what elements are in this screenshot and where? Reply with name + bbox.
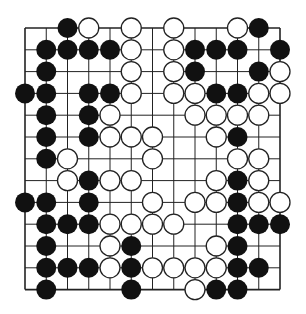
white-stone (164, 62, 184, 82)
white-stone (249, 192, 269, 212)
black-stone (249, 214, 269, 234)
white-stone (58, 149, 78, 169)
black-stone (36, 83, 56, 103)
black-stone (228, 280, 248, 300)
black-stone (100, 40, 120, 60)
white-stone (121, 83, 141, 103)
white-stone (206, 171, 226, 191)
black-stone (228, 171, 248, 191)
black-stone (79, 105, 99, 125)
black-stone (79, 83, 99, 103)
black-stone (228, 258, 248, 278)
white-stone (249, 83, 269, 103)
black-stone (79, 171, 99, 191)
white-stone (206, 236, 226, 256)
black-stone (58, 40, 78, 60)
black-stone (121, 236, 141, 256)
black-stone (36, 40, 56, 60)
white-stone (206, 258, 226, 278)
white-stone (143, 149, 163, 169)
white-stone (164, 83, 184, 103)
black-stone (36, 149, 56, 169)
black-stone (36, 236, 56, 256)
black-stone (206, 280, 226, 300)
white-stone (206, 127, 226, 147)
white-stone (143, 214, 163, 234)
black-stone (270, 40, 290, 60)
black-stone (206, 83, 226, 103)
black-stone (36, 280, 56, 300)
black-stone (228, 192, 248, 212)
black-stone (249, 62, 269, 82)
white-stone (79, 18, 99, 38)
black-stone (15, 83, 35, 103)
white-stone (58, 171, 78, 191)
black-stone (36, 192, 56, 212)
black-stone (228, 127, 248, 147)
white-stone (185, 105, 205, 125)
white-stone (185, 192, 205, 212)
white-stone (228, 105, 248, 125)
go-board (0, 0, 306, 314)
white-stone (249, 171, 269, 191)
white-stone (164, 258, 184, 278)
black-stone (36, 62, 56, 82)
white-stone (185, 83, 205, 103)
black-stone (228, 214, 248, 234)
black-stone (58, 18, 78, 38)
black-stone (58, 214, 78, 234)
black-stone (185, 62, 205, 82)
black-stone (228, 83, 248, 103)
black-stone (270, 214, 290, 234)
black-stone (249, 18, 269, 38)
white-stone (121, 214, 141, 234)
white-stone (121, 127, 141, 147)
white-stone (100, 236, 120, 256)
white-stone (270, 192, 290, 212)
white-stone (185, 280, 205, 300)
black-stone (228, 40, 248, 60)
black-stone (185, 40, 205, 60)
black-stone (36, 214, 56, 234)
white-stone (270, 83, 290, 103)
white-stone (164, 18, 184, 38)
white-stone (228, 149, 248, 169)
white-stone (143, 258, 163, 278)
black-stone (228, 236, 248, 256)
black-stone (79, 214, 99, 234)
white-stone (206, 192, 226, 212)
white-stone (143, 127, 163, 147)
white-stone (121, 40, 141, 60)
white-stone (185, 258, 205, 278)
white-stone (121, 62, 141, 82)
black-stone (79, 127, 99, 147)
white-stone (100, 171, 120, 191)
white-stone (100, 105, 120, 125)
black-stone (121, 258, 141, 278)
white-stone (206, 105, 226, 125)
black-stone (79, 40, 99, 60)
white-stone (100, 258, 120, 278)
white-stone (270, 62, 290, 82)
black-stone (79, 258, 99, 278)
white-stone (164, 214, 184, 234)
white-stone (121, 171, 141, 191)
black-stone (36, 105, 56, 125)
white-stone (249, 105, 269, 125)
black-stone (15, 192, 35, 212)
white-stone (100, 127, 120, 147)
black-stone (58, 258, 78, 278)
black-stone (100, 83, 120, 103)
white-stone (228, 18, 248, 38)
black-stone (121, 280, 141, 300)
black-stone (79, 192, 99, 212)
white-stone (143, 192, 163, 212)
white-stone (164, 40, 184, 60)
black-stone (206, 40, 226, 60)
white-stone (121, 18, 141, 38)
black-stone (36, 127, 56, 147)
black-stone (249, 258, 269, 278)
black-stone (36, 258, 56, 278)
white-stone (100, 214, 120, 234)
white-stone (249, 149, 269, 169)
